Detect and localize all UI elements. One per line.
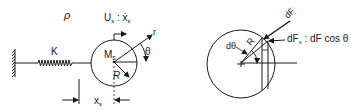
radius-label: R <box>113 70 120 81</box>
theta-label: θ <box>145 46 151 57</box>
center-cross <box>237 61 245 67</box>
sphere-spring-diagram: ρ K Us : ẋs Ms r θ R xs <box>0 0 356 112</box>
spring-icon <box>15 60 91 66</box>
force-component-arrow <box>269 40 285 41</box>
center-point <box>113 61 116 64</box>
density-label: ρ <box>63 9 70 21</box>
wall-icon <box>12 49 15 77</box>
mass-label: Ms <box>104 49 116 61</box>
dtheta-pointer <box>236 47 247 54</box>
radial-label: r <box>153 27 156 37</box>
velocity-arrow <box>114 34 126 40</box>
velocity-label: Us : ẋs <box>104 12 131 24</box>
spring-constant-label: K <box>51 46 58 57</box>
displacement-label: xs <box>94 95 102 107</box>
force-label: dF <box>282 6 297 21</box>
radius-label-right: R <box>245 35 257 47</box>
left-panel: ρ K Us : ẋs Ms r θ R xs <box>12 9 156 107</box>
dtheta-label: dθ <box>226 41 236 51</box>
right-panel: dF R dθ dFx : dF cos θ <box>207 6 349 98</box>
force-component-label: dFx : dF cos θ <box>287 33 349 45</box>
